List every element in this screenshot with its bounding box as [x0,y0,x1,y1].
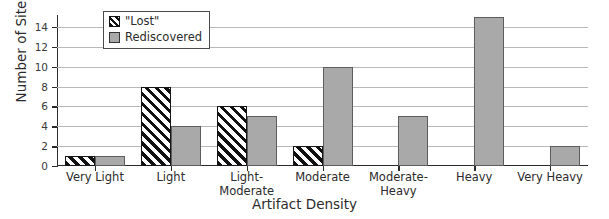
bar-group [285,15,361,166]
y-tick-mark [52,166,57,167]
y-tick-label: 8 [41,81,48,92]
y-tick-label: 0 [41,161,48,172]
x-axis-title: Artifact Density [0,196,609,212]
bar-group [436,15,512,166]
legend: "Lost" Rediscovered [103,11,210,49]
y-axis-title: Number of Sites [13,0,29,113]
bar-lost [217,106,247,166]
bar-rediscovered [474,17,504,166]
bar-rediscovered [550,146,580,166]
x-tick-label: Moderate-Heavy [360,171,436,198]
x-axis-labels: Very LightLightLight-ModerateModerateMod… [57,171,588,198]
bar-lost [141,87,171,166]
bar-lost [65,156,95,166]
bar-rediscovered [323,67,353,166]
bar-rediscovered [247,116,277,166]
x-tick-label: Very Heavy [512,171,588,198]
bar-group [512,15,588,166]
y-tick-label: 2 [41,141,48,152]
legend-item-rediscovered: Rediscovered [109,31,202,44]
bar-chart: Number of Sites 02468101214 Very LightLi… [0,0,609,219]
y-tick-label: 14 [35,22,48,33]
x-tick-label: Heavy [436,171,512,198]
x-tick-label: Moderate [285,171,361,198]
bar-rediscovered [95,156,125,166]
bar-lost [293,146,323,166]
legend-swatch-rediscovered-icon [109,32,120,43]
legend-label-lost: "Lost" [125,15,159,28]
x-tick-label: Light [133,171,209,198]
y-tick-label: 4 [41,121,48,132]
x-tick-label: Very Light [57,171,133,198]
y-tick-label: 12 [35,42,48,53]
y-tick-label: 6 [41,101,48,112]
bar-rediscovered [171,126,201,166]
bar-group [209,15,285,166]
legend-label-rediscovered: Rediscovered [125,31,202,44]
y-tick-label: 10 [35,61,48,72]
bar-rediscovered [398,116,428,166]
bar-group [360,15,436,166]
legend-item-lost: "Lost" [109,15,202,28]
x-tick-label: Light-Moderate [209,171,285,198]
legend-swatch-lost-icon [109,16,120,27]
